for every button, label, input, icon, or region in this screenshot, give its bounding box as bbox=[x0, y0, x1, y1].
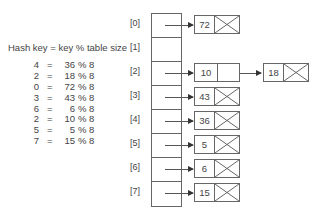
equation-list: 4=36% 8 2=18% 8 0=72% 8 3=43% 8 6=6% 8 2… bbox=[31, 60, 121, 147]
equation-row: 3=43% 8 bbox=[31, 93, 121, 104]
slot-index-label: [5] bbox=[130, 138, 148, 148]
arrow-icon bbox=[165, 97, 193, 98]
arrow-icon bbox=[165, 121, 193, 122]
hash-slot-0 bbox=[152, 14, 181, 38]
list-node: 36 bbox=[194, 111, 240, 130]
slot-index-label: [4] bbox=[130, 114, 148, 124]
equation-row: 4=36% 8 bbox=[31, 60, 121, 71]
null-pointer-icon bbox=[215, 184, 239, 201]
null-pointer-icon bbox=[215, 112, 239, 129]
slot-index-label: [6] bbox=[130, 162, 148, 172]
equation-row: 0=72% 8 bbox=[31, 82, 121, 93]
hash-slot-1 bbox=[152, 38, 181, 62]
null-pointer-icon bbox=[215, 136, 239, 153]
equation-row: 5=5% 8 bbox=[31, 125, 121, 136]
equals-sign: = bbox=[47, 93, 53, 104]
equals-sign: = bbox=[47, 136, 53, 147]
hash-slot-6 bbox=[152, 158, 181, 182]
hash-slot-2 bbox=[152, 62, 181, 86]
hash-slot-3 bbox=[152, 86, 181, 110]
node-value: 36 bbox=[195, 112, 215, 129]
slot-index-label: [1] bbox=[130, 42, 148, 52]
equation-row: 2=10% 8 bbox=[31, 114, 121, 125]
hash-table bbox=[151, 13, 182, 207]
list-node: 5 bbox=[194, 135, 240, 154]
equation-row: 2=18% 8 bbox=[31, 71, 121, 82]
list-node: 72 bbox=[194, 15, 240, 34]
hash-slot-5 bbox=[152, 134, 181, 158]
slot-index-label: [0] bbox=[130, 18, 148, 28]
next-pointer bbox=[218, 64, 239, 81]
hash-slot-7 bbox=[152, 182, 181, 206]
key-value: 15 bbox=[61, 136, 75, 147]
slot-index-label: [7] bbox=[130, 186, 148, 196]
key-value: 43 bbox=[61, 93, 75, 104]
node-value: 18 bbox=[264, 64, 284, 81]
null-pointer-icon bbox=[215, 160, 239, 177]
list-node: 6 bbox=[194, 159, 240, 178]
null-pointer-icon bbox=[215, 16, 239, 33]
node-value: 15 bbox=[195, 184, 215, 201]
modulo-term: % 8 bbox=[78, 136, 94, 147]
node-value: 72 bbox=[195, 16, 215, 33]
node-value: 6 bbox=[195, 160, 215, 177]
null-pointer-icon bbox=[215, 88, 239, 105]
equation-row: 6=6% 8 bbox=[31, 104, 121, 115]
arrow-icon bbox=[165, 25, 193, 26]
slot-index-label: [3] bbox=[130, 90, 148, 100]
node-value: 10 bbox=[195, 64, 218, 81]
arrow-icon bbox=[165, 73, 193, 74]
hash-formula-title: Hash key = key % table size bbox=[8, 42, 127, 53]
hash-value: 3 bbox=[31, 93, 39, 104]
slot-index-label: [2] bbox=[130, 66, 148, 76]
modulo-term: % 8 bbox=[78, 93, 94, 104]
equation-row: 7=15% 8 bbox=[31, 136, 121, 147]
list-node: 18 bbox=[263, 63, 309, 82]
hash-slot-4 bbox=[152, 110, 181, 134]
arrow-icon bbox=[165, 145, 193, 146]
arrow-icon bbox=[165, 193, 193, 194]
null-pointer-icon bbox=[284, 64, 308, 81]
node-value: 43 bbox=[195, 88, 215, 105]
arrow-icon bbox=[165, 169, 193, 170]
node-value: 5 bbox=[195, 136, 215, 153]
hash-value: 7 bbox=[31, 136, 39, 147]
list-node: 10 bbox=[194, 63, 240, 82]
list-node: 15 bbox=[194, 183, 240, 202]
list-node: 43 bbox=[194, 87, 240, 106]
